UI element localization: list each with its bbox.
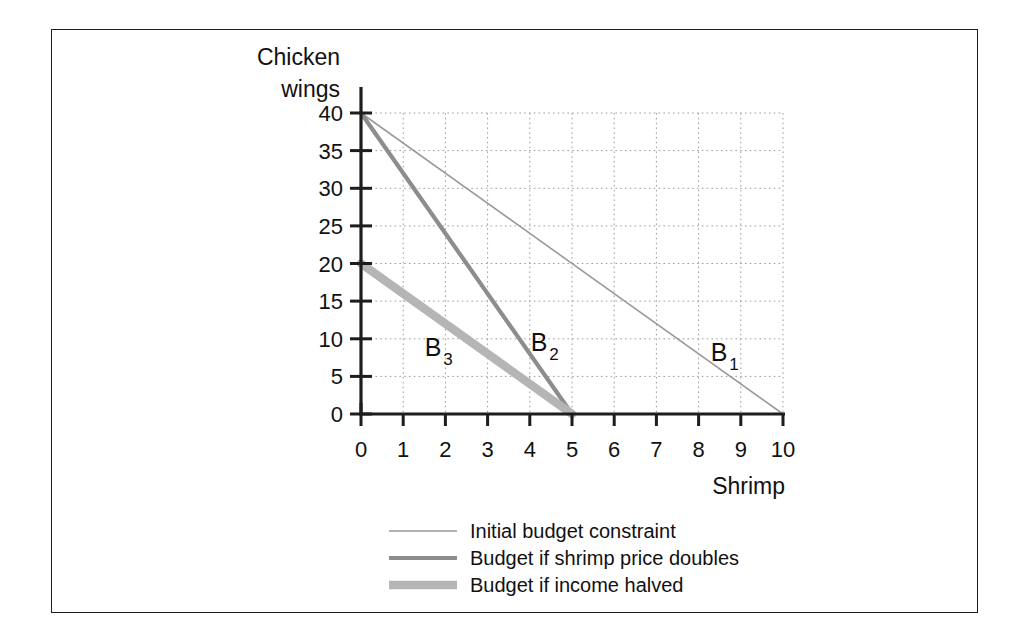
x-tick-label-6: 6 — [608, 437, 620, 462]
x-tick-label-7: 7 — [650, 437, 662, 462]
y-tick-label-10: 10 — [319, 327, 343, 352]
curve-label-b1-sub: 1 — [729, 355, 738, 374]
legend-label-initial-budget-constraint: Initial budget constraint — [470, 520, 676, 542]
y-tick-label-15: 15 — [319, 289, 343, 314]
figure-frame: 0 5 10 15 20 25 30 35 40 0 1 2 3 4 5 6 7… — [51, 29, 978, 613]
y-tick-label-25: 25 — [319, 214, 343, 239]
legend-label-shrimp-price-doubles: Budget if shrimp price doubles — [470, 547, 739, 569]
y-tick-label-5: 5 — [331, 364, 343, 389]
budget-constraint-chart: 0 5 10 15 20 25 30 35 40 0 1 2 3 4 5 6 7… — [52, 30, 979, 614]
x-tick-label-1: 1 — [397, 437, 409, 462]
x-axis-title: Shrimp — [712, 473, 785, 499]
series-line-b2 — [361, 113, 572, 414]
curve-label-b3-base: B — [425, 333, 442, 361]
y-tick-label-0: 0 — [331, 402, 343, 427]
x-tick-label-0: 0 — [355, 437, 367, 462]
x-tick-label-8: 8 — [692, 437, 704, 462]
curve-label-b1: B 1 — [711, 338, 739, 374]
y-tick-label-35: 35 — [319, 139, 343, 164]
curve-label-b3-sub: 3 — [443, 350, 452, 369]
x-tick-label-2: 2 — [439, 437, 451, 462]
legend-label-income-halved: Budget if income halved — [470, 574, 683, 596]
y-axis-title-line1: Chicken — [257, 44, 340, 70]
curve-label-b2-sub: 2 — [549, 345, 558, 364]
y-tick-label-20: 20 — [319, 252, 343, 277]
x-tick-label-5: 5 — [566, 437, 578, 462]
y-axis-title-line2: wings — [280, 76, 340, 102]
x-tick-label-10: 10 — [771, 437, 795, 462]
curve-label-b1-base: B — [711, 338, 728, 366]
x-tick-label-4: 4 — [524, 437, 536, 462]
x-tick-label-3: 3 — [481, 437, 493, 462]
y-tick-labels: 0 5 10 15 20 25 30 35 40 — [319, 101, 343, 427]
y-tick-label-40: 40 — [319, 101, 343, 126]
y-tick-label-30: 30 — [319, 176, 343, 201]
curve-label-b2-base: B — [531, 328, 548, 356]
x-tick-label-9: 9 — [735, 437, 747, 462]
chart-legend: Initial budget constraint Budget if shri… — [389, 520, 739, 596]
x-tick-labels: 0 1 2 3 4 5 6 7 8 9 10 — [355, 437, 795, 462]
chart-area: 0 5 10 15 20 25 30 35 40 0 1 2 3 4 5 6 7… — [52, 30, 979, 614]
